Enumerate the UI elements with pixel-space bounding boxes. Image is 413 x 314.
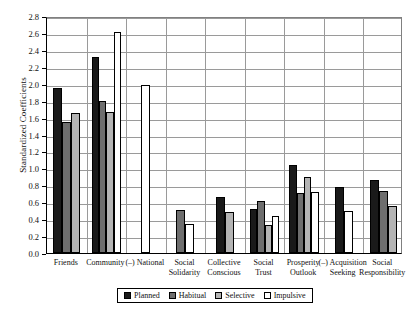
- group-separator: [205, 18, 206, 253]
- legend-item: Habitual: [169, 291, 207, 300]
- gridline: [47, 52, 401, 53]
- bar-selective: [106, 112, 113, 253]
- gridline: [47, 69, 401, 70]
- legend-swatch-icon: [215, 292, 222, 299]
- bar-habitual: [62, 122, 71, 253]
- y-tick-label: 0.0: [28, 250, 39, 258]
- group-separator: [87, 18, 88, 253]
- y-tick-label: 1.6: [28, 115, 39, 123]
- group-separator: [245, 18, 246, 253]
- bar-selective: [225, 212, 234, 253]
- legend-label: Habitual: [179, 291, 207, 300]
- bar-habitual: [379, 191, 388, 253]
- legend-swatch-icon: [264, 292, 271, 299]
- y-tick-label: 0.2: [28, 233, 39, 241]
- gridline: [47, 86, 401, 87]
- y-tick-label: 2.4: [28, 47, 39, 55]
- bar-selective: [265, 225, 272, 253]
- legend-label: Selective: [225, 291, 254, 300]
- y-tick-label: 0.6: [28, 199, 39, 207]
- group-separator: [284, 18, 285, 253]
- bar-impulsive: [272, 216, 279, 253]
- bar-impulsive: [185, 224, 194, 253]
- group-separator: [126, 18, 127, 253]
- bar-habitual: [99, 101, 106, 253]
- legend-swatch-icon: [169, 292, 176, 299]
- y-tick-label: 2.8: [28, 13, 39, 21]
- legend-item: Selective: [215, 291, 254, 300]
- y-tick-label: 1.2: [28, 148, 39, 156]
- gridline: [47, 35, 401, 36]
- group-separator: [166, 18, 167, 253]
- bar-planned: [53, 88, 62, 253]
- y-tick-label: 2.0: [28, 81, 39, 89]
- bar-habitual: [297, 193, 304, 253]
- y-tick-label: 0.8: [28, 182, 39, 190]
- bar-planned: [216, 197, 225, 253]
- y-tick-label: 0.4: [28, 216, 39, 224]
- bar-impulsive: [114, 32, 121, 253]
- bar-planned: [335, 187, 344, 253]
- bar-planned: [250, 209, 257, 253]
- legend-item: Impulsive: [264, 291, 306, 300]
- bar-impulsive: [141, 85, 150, 253]
- y-tick-label: 1.0: [28, 165, 39, 173]
- y-tick-label: 1.8: [28, 98, 39, 106]
- group-separator: [324, 18, 325, 253]
- bar-impulsive: [311, 192, 318, 253]
- legend-label: Planned: [134, 291, 160, 300]
- y-tick-label: 1.4: [28, 132, 39, 140]
- plot-area: [46, 17, 402, 254]
- x-tick-label: Social Responsibility: [356, 258, 408, 277]
- bar-selective: [71, 113, 80, 254]
- group-separator: [363, 18, 364, 253]
- chart-figure: Standardized Coefficients 0.00.20.40.60.…: [0, 0, 413, 314]
- bar-selective: [388, 206, 397, 253]
- bar-impulsive: [344, 211, 353, 253]
- bar-habitual: [176, 210, 185, 253]
- bar-planned: [92, 57, 99, 253]
- bar-planned: [370, 180, 379, 253]
- gridline: [47, 18, 401, 19]
- y-tick-mark: [42, 254, 46, 255]
- legend-swatch-icon: [124, 292, 131, 299]
- bar-habitual: [257, 201, 264, 253]
- bar-selective: [304, 177, 311, 253]
- bar-planned: [289, 165, 296, 253]
- y-tick-label: 2.6: [28, 30, 39, 38]
- legend-item: Planned: [124, 291, 160, 300]
- y-tick-label: 2.2: [28, 64, 39, 72]
- chart-legend: PlannedHabitualSelectiveImpulsive: [117, 288, 313, 303]
- legend-label: Impulsive: [274, 291, 306, 300]
